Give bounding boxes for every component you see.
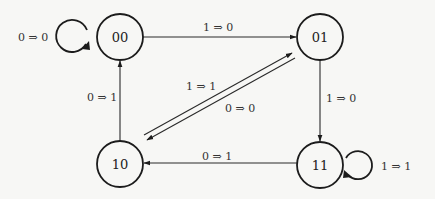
transition-01-to-11: 1 ⇒ 0 (320, 60, 356, 141)
state-01: 01 (297, 14, 343, 60)
transition-01-to-10: 0 ⇒ 0 (147, 58, 295, 140)
transition-label: 0 ⇒ 1 (202, 150, 232, 163)
arrow-01-10 (147, 58, 295, 140)
arrowhead-icon (343, 170, 352, 178)
transition-label: 1 ⇒ 0 (203, 21, 233, 34)
state-diagram: 0 ⇒ 0 1 ⇒ 0 1 ⇒ 0 0 ⇒ 0 1 ⇒ 1 0 ⇒ 1 0 ⇒ … (0, 0, 435, 199)
state-10: 10 (97, 141, 143, 187)
transition-10-to-00: 0 ⇒ 1 (87, 61, 120, 141)
transition-label: 0 ⇒ 1 (87, 91, 117, 104)
arrow-10-01 (144, 53, 292, 135)
state-label: 00 (112, 30, 129, 45)
transition-11-to-11: 1 ⇒ 1 (343, 151, 411, 179)
transition-label: 1 ⇒ 1 (186, 80, 216, 93)
state-label: 11 (312, 158, 329, 173)
transition-label: 0 ⇒ 0 (18, 31, 48, 44)
self-loop-arrow-00 (56, 20, 87, 52)
state-00: 00 (97, 14, 143, 60)
transition-label: 1 ⇒ 0 (326, 92, 356, 105)
state-label: 10 (112, 157, 129, 172)
transition-10-to-01: 1 ⇒ 1 (144, 53, 292, 135)
self-loop-arrow-11 (346, 151, 372, 179)
arrowhead-icon (82, 41, 90, 50)
transition-00-to-01: 1 ⇒ 0 (143, 21, 296, 38)
transition-label: 0 ⇒ 0 (225, 102, 255, 115)
transition-11-to-10: 0 ⇒ 1 (144, 150, 297, 164)
transition-label: 1 ⇒ 1 (381, 160, 411, 173)
state-label: 01 (312, 30, 329, 45)
transition-00-to-00: 0 ⇒ 0 (18, 20, 90, 52)
state-11: 11 (297, 142, 343, 188)
